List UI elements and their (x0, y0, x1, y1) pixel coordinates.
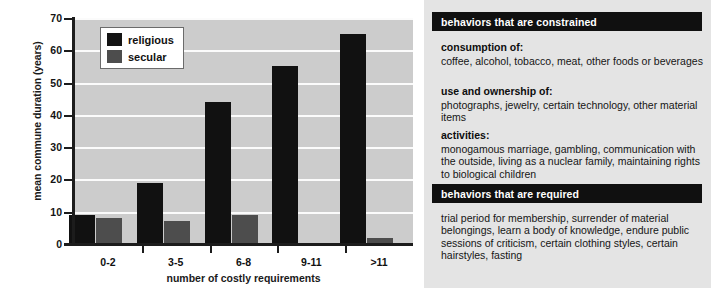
chart-legend: religious secular (100, 27, 184, 69)
legend-item-secular: secular (107, 50, 174, 63)
block-consumption-body: coffee, alcohol, tobacco, meat, other fo… (441, 55, 703, 67)
bar-religious-6-8 (205, 102, 231, 244)
bar-chart: mean commune duration (years) 0102030405… (0, 0, 420, 288)
y-axis-tick-label: 40 (22, 109, 62, 121)
y-axis-tick-label: 60 (22, 44, 62, 56)
y-axis-tick (64, 115, 73, 117)
block-use-ownership-body: photographs, jewelry, certain technology… (441, 99, 703, 124)
figure-root: mean commune duration (years) 0102030405… (0, 0, 711, 288)
y-axis-tick-label: 50 (22, 77, 62, 89)
x-axis-tick-label: 0-2 (100, 256, 115, 268)
legend-swatch-religious (107, 33, 122, 46)
x-axis-tick (345, 245, 347, 253)
block-activities-body: monogamous marriage, gambling, communica… (441, 143, 703, 180)
x-axis-tick-label: 9-11 (301, 256, 321, 268)
x-axis-tick-label: 6-8 (236, 256, 251, 268)
y-axis-tick-label: 0 (22, 238, 62, 250)
gridline (74, 18, 413, 20)
block-consumption-title: consumption of: (441, 41, 703, 54)
panel-header-constrained: behaviors that are constrained (432, 12, 702, 31)
x-axis-tick (142, 245, 144, 253)
y-axis-tick (64, 50, 73, 52)
y-axis-tick (64, 244, 73, 246)
block-consumption: consumption of: coffee, alcohol, tobacco… (441, 41, 703, 67)
legend-item-religious: religious (107, 33, 174, 46)
legend-label-secular: secular (128, 51, 167, 63)
bar-religious->11 (340, 34, 366, 244)
legend-swatch-secular (107, 50, 122, 63)
bar-secular-6-8 (232, 215, 258, 244)
block-use-ownership-title: use and ownership of: (441, 85, 703, 98)
legend-label-religious: religious (128, 34, 174, 46)
y-axis-tick (64, 179, 73, 181)
x-axis-tick (277, 245, 279, 253)
info-panel: behaviors that are constrained consumpti… (424, 0, 711, 288)
bar-secular-3-5 (164, 221, 190, 244)
y-axis-tick (64, 83, 73, 85)
x-axis-tick-label: >11 (370, 256, 387, 268)
panel-header-required: behaviors that are required (432, 184, 702, 203)
y-axis-tick (64, 147, 73, 149)
x-axis-title: number of costly requirements (74, 272, 413, 284)
block-required: trial period for membership, surrender o… (441, 212, 703, 261)
y-axis-tick-label: 70 (22, 12, 62, 24)
y-axis-tick (64, 18, 73, 20)
block-activities: activities: monogamous marriage, gamblin… (441, 129, 703, 180)
y-axis-tick-label: 10 (22, 206, 62, 218)
y-axis-tick (64, 212, 73, 214)
y-axis-tick-labels: 010203040506070 (18, 0, 62, 288)
x-axis-line (64, 243, 413, 246)
bar-secular-0-2 (96, 218, 122, 244)
y-axis-tick-label: 20 (22, 173, 62, 185)
block-use-ownership: use and ownership of: photographs, jewel… (441, 85, 703, 124)
bar-religious-9-11 (272, 66, 298, 244)
bar-religious-3-5 (137, 183, 163, 244)
block-activities-title: activities: (441, 129, 703, 142)
x-axis-tick-label: 3-5 (168, 256, 183, 268)
x-axis-tick (210, 245, 212, 253)
block-required-body: trial period for membership, surrender o… (441, 212, 703, 261)
y-axis-tick-label: 30 (22, 141, 62, 153)
